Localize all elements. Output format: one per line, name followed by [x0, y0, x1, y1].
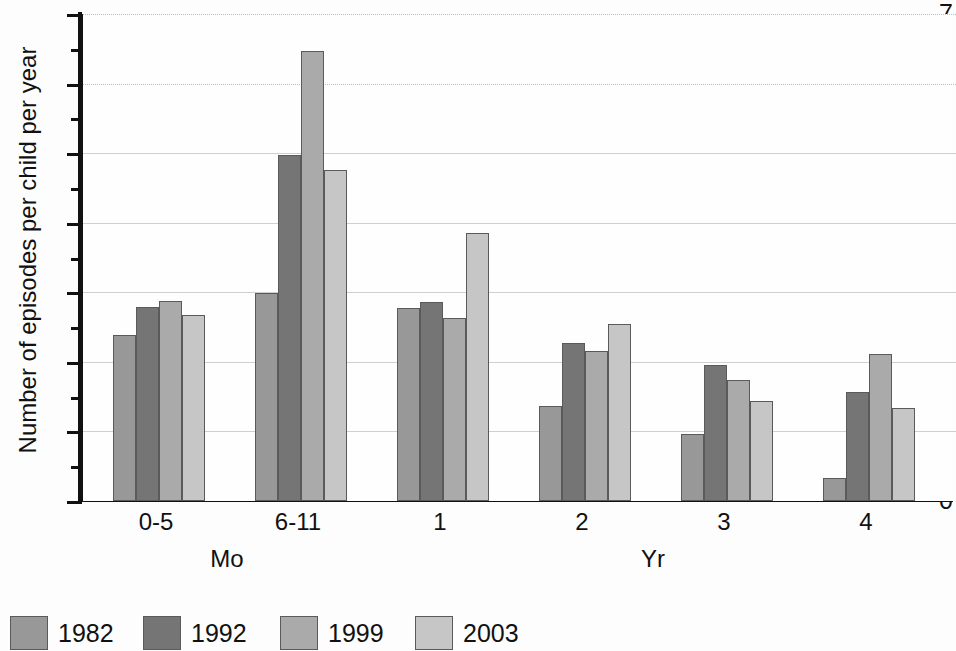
x-tick-label-2: 2: [522, 508, 642, 536]
bar-1992-4: [846, 392, 869, 501]
bar-2003-1: [466, 233, 489, 501]
x-tick-label-1: 1: [380, 508, 500, 536]
y-tick-major-4: [67, 223, 80, 226]
gridline-1: [83, 431, 956, 432]
y-tick-minor-1.5: [71, 397, 80, 400]
bar-1999-6-11: [301, 51, 324, 501]
y-tick-major-0: [67, 501, 80, 504]
bar-2003-4: [892, 408, 915, 501]
y-tick-major-1: [67, 431, 80, 434]
bar-1982-3: [681, 434, 704, 501]
y-tick-major-3: [67, 292, 80, 295]
y-tick-minor-6.5: [71, 49, 80, 52]
x-unit-label-Mo: Mo: [167, 545, 287, 573]
bar-1982-0-5: [113, 335, 136, 501]
bar-2003-2: [608, 324, 631, 501]
y-axis-title: Number of episodes per child per year: [14, 0, 42, 500]
y-tick-minor-4.5: [71, 188, 80, 191]
bar-1999-3: [727, 380, 750, 501]
legend-label-2003: 2003: [463, 616, 519, 650]
gridline-2: [83, 362, 956, 363]
bar-1992-6-11: [278, 155, 301, 501]
x-tick-label-0-5: 0-5: [96, 508, 216, 536]
bar-1999-0-5: [159, 301, 182, 501]
y-tick-minor-2.5: [71, 327, 80, 330]
bar-1982-1: [397, 308, 420, 501]
gridline-5: [83, 153, 956, 154]
legend-swatch-1982: [10, 616, 48, 650]
y-tick-major-5: [67, 153, 80, 156]
bar-1999-2: [585, 351, 608, 501]
bar-1992-0-5: [136, 307, 159, 501]
x-tick-label-3: 3: [664, 508, 784, 536]
gridline-3: [83, 292, 956, 293]
bar-1982-2: [539, 406, 562, 501]
y-tick-minor-3.5: [71, 258, 80, 261]
x-tick-label-4: 4: [806, 508, 926, 536]
bar-1982-4: [823, 478, 846, 501]
legend-label-1992: 1992: [191, 616, 247, 650]
y-tick-major-6: [67, 84, 80, 87]
bar-1992-2: [562, 343, 585, 501]
legend: 1982199219992003: [0, 612, 953, 651]
bar-1999-1: [443, 318, 466, 501]
bar-1992-1: [420, 302, 443, 501]
gridline-4: [83, 223, 956, 224]
y-tick-major-2: [67, 362, 80, 365]
bar-2003-6-11: [324, 170, 347, 501]
legend-swatch-2003: [415, 616, 453, 650]
bar-2003-0-5: [182, 315, 205, 501]
gridline-6: [83, 84, 956, 85]
plot-area: [80, 14, 953, 501]
bar-2003-3: [750, 401, 773, 501]
legend-swatch-1999: [280, 616, 318, 650]
bar-1982-6-11: [255, 293, 278, 501]
x-tick-label-6-11: 6-11: [238, 508, 358, 536]
y-tick-minor-5.5: [71, 118, 80, 121]
bar-1992-3: [704, 365, 727, 501]
x-unit-label-Yr: Yr: [593, 545, 713, 573]
legend-label-1982: 1982: [58, 616, 114, 650]
bar-1999-4: [869, 354, 892, 501]
legend-swatch-1992: [143, 616, 181, 650]
gridline-7: [83, 14, 956, 15]
y-tick-minor-0.5: [71, 466, 80, 469]
y-tick-major-7: [67, 14, 80, 17]
legend-label-1999: 1999: [328, 616, 384, 650]
